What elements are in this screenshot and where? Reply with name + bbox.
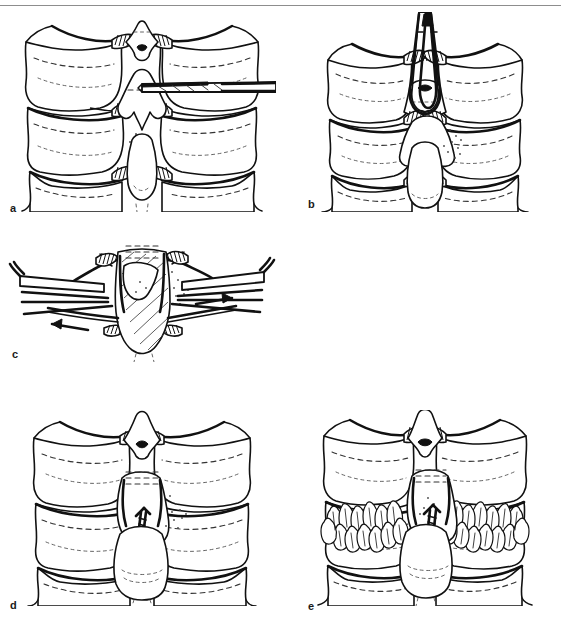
panel-d-illustration <box>8 410 276 606</box>
spinous-process-lower-d <box>114 527 168 607</box>
spinous-process-upper-a <box>126 21 158 61</box>
drill-bit-instrument-a[interactable] <box>138 82 276 92</box>
wire-holder-left-c[interactable] <box>10 262 112 314</box>
panel-label-b: b <box>308 199 315 210</box>
bone-graft-left-e <box>321 501 409 552</box>
spinous-process-lower-b <box>407 142 443 208</box>
figure-root: a <box>0 0 561 625</box>
panel-e-illustration <box>300 410 550 606</box>
panel-b-illustration <box>300 12 550 212</box>
panel-label-d: d <box>10 600 17 611</box>
panel-d <box>8 410 276 606</box>
top-divider-rule <box>0 5 561 6</box>
panel-a <box>8 12 276 212</box>
panel-b <box>300 12 550 212</box>
panel-label-e: e <box>308 601 314 612</box>
panel-label-a: a <box>10 203 16 214</box>
panel-c <box>0 232 290 362</box>
wire-right-c <box>168 306 236 322</box>
arrow-left-c <box>52 319 88 330</box>
panel-c-illustration <box>0 232 290 362</box>
spinous-process-lower-a <box>127 134 157 212</box>
panel-label-c: c <box>12 349 18 360</box>
wire-left-c <box>48 308 118 322</box>
facet-joint-hatch-upper-b <box>404 50 446 64</box>
panel-e <box>300 410 550 606</box>
panel-a-illustration <box>8 12 276 212</box>
